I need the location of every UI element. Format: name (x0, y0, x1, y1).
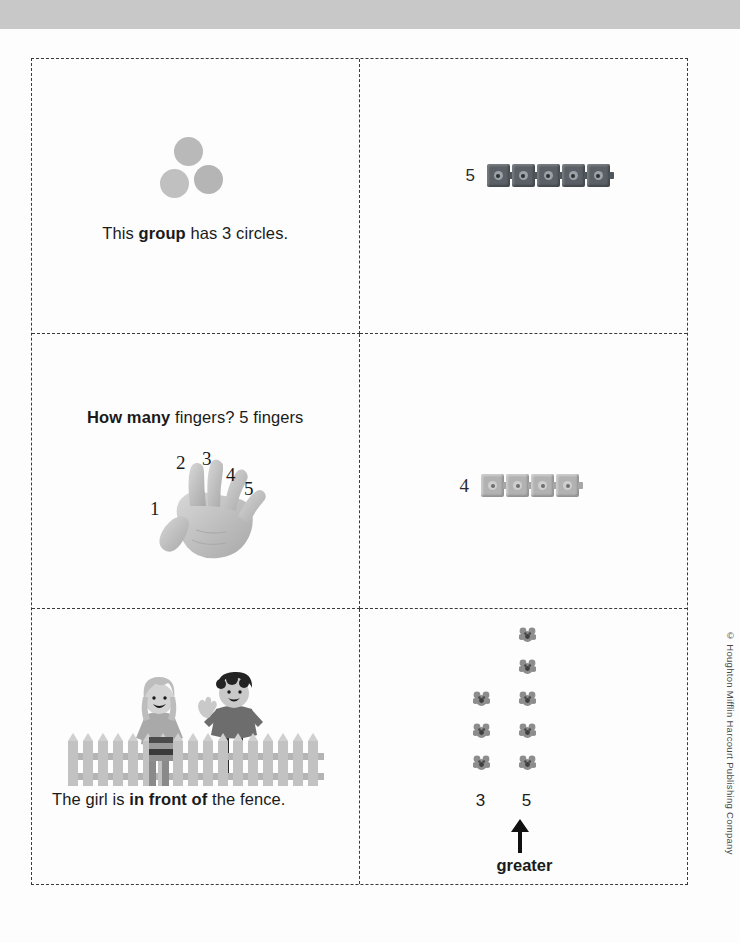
circles-illustration (32, 137, 359, 207)
workbook-page: This group has 3 circles. 5 How many fin… (0, 29, 740, 943)
right-column-count-label: 5 (512, 791, 542, 811)
caption-vocab-word: How many (87, 408, 170, 426)
circle-shape (194, 165, 223, 194)
caption-vocab-word: in front of (129, 790, 207, 808)
caption-text-after: the fence. (207, 790, 285, 808)
card-caption: How many fingers? 5 fingers (32, 407, 359, 428)
cube-count-label: 4 (460, 475, 470, 497)
copyright-notice: © Houghton Mifflin Harcourt Publishing C… (725, 630, 736, 855)
caption-text-after: fingers? 5 fingers (170, 408, 303, 426)
cube (562, 164, 585, 187)
card-in-front-of: The girl is in front of the fence. (32, 609, 360, 884)
cube (587, 164, 610, 187)
cube-socket (494, 171, 503, 180)
caption-text-before: The girl is (52, 790, 129, 808)
finger-number-2: 2 (176, 452, 186, 474)
cube-socket (519, 171, 528, 180)
caption-vocab-word: group (139, 224, 186, 242)
cube (481, 474, 504, 497)
card-five-cubes: 5 (360, 59, 688, 334)
circle-shape (160, 169, 189, 198)
card-how-many-fingers: How many fingers? 5 fingers (32, 334, 360, 609)
cube (512, 164, 535, 187)
cube (556, 474, 579, 497)
cube-socket (569, 171, 578, 180)
cube (531, 474, 554, 497)
card-greater: 3 5 greater (360, 609, 688, 884)
cube-socket (594, 171, 603, 180)
caption-text-before: This (102, 224, 138, 242)
picket-fence (68, 733, 324, 786)
fence-scene-illustration (46, 651, 346, 786)
counter (473, 723, 490, 739)
cube-train-four: 4 (460, 474, 582, 497)
counter (519, 755, 536, 771)
counter (519, 659, 536, 675)
cube-train-five: 5 (466, 164, 612, 187)
counter (519, 723, 536, 739)
card-group-circles: This group has 3 circles. (32, 59, 360, 334)
cube (487, 164, 510, 187)
cube-group (481, 474, 581, 497)
counter (473, 755, 490, 771)
counter (473, 691, 490, 707)
hand-illustration: 1 2 3 4 5 (140, 434, 290, 574)
vocabulary-card-grid: This group has 3 circles. 5 How many fin… (31, 58, 688, 885)
cube-group (487, 164, 612, 187)
counter-columns: 3 5 greater (360, 623, 688, 853)
finger-number-4: 4 (226, 464, 236, 486)
finger-number-3: 3 (202, 448, 212, 470)
up-arrow-icon (510, 819, 530, 853)
cube-socket (513, 481, 522, 490)
left-column-count-label: 3 (466, 791, 496, 811)
circle-shape (174, 137, 203, 166)
card-caption: This group has 3 circles. (32, 223, 359, 244)
card-four-cubes: 4 (360, 334, 688, 609)
finger-number-1: 1 (150, 498, 160, 520)
caption-text-after: has 3 circles. (186, 224, 288, 242)
cube-socket (563, 481, 572, 490)
card-caption: The girl is in front of the fence. (32, 789, 360, 810)
fence-scene-svg (46, 651, 346, 786)
scanner-top-bar (0, 0, 740, 29)
finger-number-5: 5 (244, 478, 254, 500)
thumb-shape (159, 516, 189, 552)
greater-label: greater (470, 856, 580, 875)
counter (519, 691, 536, 707)
cube-socket (538, 481, 547, 490)
hand-svg (140, 434, 290, 574)
cube (537, 164, 560, 187)
cube (506, 474, 529, 497)
cube-socket (488, 481, 497, 490)
cube-count-label: 5 (466, 166, 475, 186)
cube-socket (544, 171, 553, 180)
counter (519, 627, 536, 643)
